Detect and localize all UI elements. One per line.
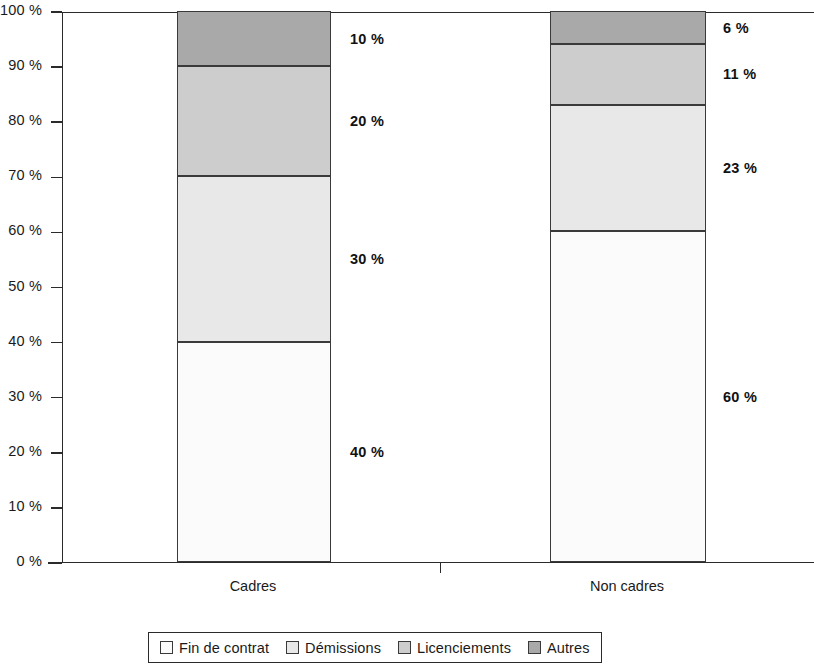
segment-value-label: 20 % bbox=[350, 113, 384, 129]
segment-value-label: 6 % bbox=[723, 20, 749, 36]
legend-item: Licenciements bbox=[398, 640, 511, 656]
y-axis-tick-mark bbox=[51, 232, 62, 234]
y-axis-tick-label: 10 % bbox=[8, 498, 42, 514]
bar-segment bbox=[550, 11, 706, 44]
y-axis-tick-mark bbox=[51, 452, 62, 454]
x-axis-mid-tick bbox=[440, 563, 442, 573]
legend-swatch-licenciements bbox=[398, 641, 411, 654]
y-axis-tick-mark bbox=[51, 177, 62, 179]
legend-swatch-fin-de-contrat bbox=[160, 641, 173, 654]
segment-value-label: 40 % bbox=[350, 444, 384, 460]
segment-value-label: 23 % bbox=[723, 160, 757, 176]
y-axis-tick-mark bbox=[51, 287, 62, 289]
y-axis-tick-label: 50 % bbox=[8, 278, 42, 294]
y-axis-tick-mark bbox=[51, 11, 62, 13]
y-axis-tick-label: 0 % bbox=[16, 553, 42, 569]
y-axis-tick-label: 30 % bbox=[8, 388, 42, 404]
legend-label: Licenciements bbox=[417, 640, 511, 656]
segment-value-label: 10 % bbox=[350, 31, 384, 47]
y-axis-tick-mark bbox=[51, 66, 62, 68]
y-axis-tick-mark bbox=[51, 342, 62, 344]
segment-value-label: 30 % bbox=[350, 251, 384, 267]
bar-segment bbox=[550, 44, 706, 105]
legend-swatch-demissions bbox=[286, 641, 299, 654]
bar-segment bbox=[550, 231, 706, 562]
y-axis-tick-mark bbox=[51, 121, 62, 123]
bar-segment bbox=[177, 176, 331, 341]
y-axis-tick-mark bbox=[51, 507, 62, 509]
y-axis-tick-label: 90 % bbox=[8, 57, 42, 73]
bar-segment bbox=[177, 11, 331, 66]
stacked-bar-chart: 100 %90 %80 %70 %60 %50 %40 %30 %20 %10 … bbox=[0, 0, 814, 669]
x-axis-category-label: Cadres bbox=[173, 578, 333, 594]
legend-item: Démissions bbox=[286, 640, 381, 656]
bar-segment bbox=[550, 105, 706, 232]
bar-stack bbox=[550, 11, 706, 562]
plot-area bbox=[62, 12, 814, 563]
y-axis-tick-label: 40 % bbox=[8, 333, 42, 349]
bar-stack bbox=[177, 11, 331, 562]
bar-segment bbox=[177, 342, 331, 562]
y-axis-tick-mark bbox=[51, 397, 62, 399]
y-axis-tick-label: 70 % bbox=[8, 167, 42, 183]
legend-label: Autres bbox=[547, 640, 590, 656]
y-axis-tick-label: 100 % bbox=[0, 2, 42, 18]
legend-item: Autres bbox=[528, 640, 590, 656]
legend-label: Fin de contrat bbox=[179, 640, 269, 656]
chart-legend: Fin de contrat Démissions Licenciements … bbox=[148, 632, 602, 663]
legend-swatch-autres bbox=[528, 641, 541, 654]
y-axis-tick-label: 20 % bbox=[8, 443, 42, 459]
y-axis-tick-label: 60 % bbox=[8, 222, 42, 238]
segment-value-label: 60 % bbox=[723, 389, 757, 405]
x-axis-category-label: Non cadres bbox=[547, 578, 707, 594]
legend-item: Fin de contrat bbox=[160, 640, 269, 656]
x-axis-left-extension bbox=[48, 562, 62, 564]
segment-value-label: 11 % bbox=[723, 66, 756, 82]
legend-label: Démissions bbox=[305, 640, 381, 656]
y-axis-tick-label: 80 % bbox=[8, 112, 42, 128]
bar-segment bbox=[177, 66, 331, 176]
